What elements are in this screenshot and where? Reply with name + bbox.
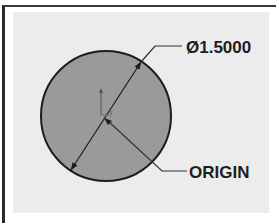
sketch-drawing: 0 xyxy=(0,0,276,223)
diameter-dimension-label[interactable]: Ø1.5000 xyxy=(186,38,251,58)
origin-label: ORIGIN xyxy=(189,163,249,183)
diameter-leader-line xyxy=(141,46,182,62)
